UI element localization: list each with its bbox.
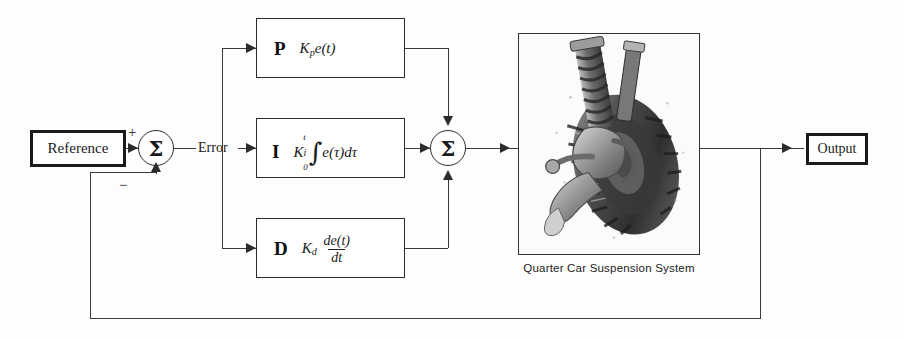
wire-d-up-to-sum: [448, 174, 449, 248]
plant-caption: Quarter Car Suspension System: [518, 262, 700, 274]
error-summing-junction: Σ: [138, 130, 174, 166]
integral-expression: e(τ)dτ: [322, 144, 357, 161]
error-signal-label: Error: [198, 140, 228, 156]
control-sum-symbol: Σ: [441, 136, 456, 161]
arrowhead-feedback-into-error-sum: [151, 162, 161, 172]
arrowhead-d-into-control-sum: [443, 170, 453, 180]
plant-block: [518, 33, 700, 255]
integral-block-content: I Ki t 0 ∫ e(τ)dτ: [272, 137, 357, 167]
integral-symbol: ∫: [309, 142, 323, 163]
derivative-block-letter: D: [274, 238, 288, 260]
wire-control-to-plant: [466, 148, 518, 149]
minus-sign-error-sum: −: [119, 178, 127, 193]
proportional-block-formula: Kpe(t): [300, 40, 336, 58]
proportional-block-content: P Kpe(t): [274, 38, 336, 60]
arrowhead-p-into-control-sum: [443, 116, 453, 126]
output-block: Output: [806, 133, 868, 165]
derivative-block-content: D Kd de(t) dt: [274, 233, 353, 265]
derivative-block-formula: Kd de(t) dt: [302, 233, 353, 265]
wire-feedback-bottom: [90, 318, 761, 319]
control-summing-junction: Σ: [430, 130, 466, 166]
integral-block-formula: Ki t 0 ∫ e(τ)dτ: [293, 137, 357, 167]
wire-p-down-to-sum: [448, 48, 449, 122]
arrowhead-into-plant: [500, 143, 510, 153]
output-label: Output: [818, 141, 857, 157]
wire-feedback-down: [760, 148, 761, 318]
wire-feedback-up: [90, 172, 91, 318]
reference-label: Reference: [48, 140, 109, 157]
integral-lower-limit: 0: [303, 162, 308, 172]
error-distribution-bus: [222, 48, 223, 248]
wire-p-out: [405, 48, 448, 49]
integral-upper-limit: t: [303, 132, 308, 142]
wire-feedback-to-error-sum: [90, 172, 156, 173]
reference-block: Reference: [30, 130, 126, 167]
proportional-block-letter: P: [274, 38, 286, 60]
derivative-denominator: dt: [328, 249, 345, 266]
plus-sign-error-sum: +: [128, 125, 136, 140]
arrowhead-into-i-block: [246, 143, 256, 153]
error-sum-symbol: Σ: [149, 136, 164, 161]
arrowhead-into-d-block: [246, 243, 256, 253]
quarter-car-suspension-image: [519, 34, 699, 254]
wire-d-out: [405, 248, 448, 249]
derivative-numerator: de(t): [321, 233, 353, 249]
arrowhead-i-into-control-sum: [420, 143, 430, 153]
arrowhead-into-p-block: [246, 43, 256, 53]
wire-sum-to-error-label: [174, 148, 196, 149]
arrowhead-into-error-sum: [128, 143, 138, 153]
integral-block-letter: I: [272, 141, 279, 163]
pid-block-diagram: Reference + Σ − Error P Kpe(t) I Ki t 0: [0, 0, 903, 338]
arrowhead-into-output: [782, 143, 792, 153]
